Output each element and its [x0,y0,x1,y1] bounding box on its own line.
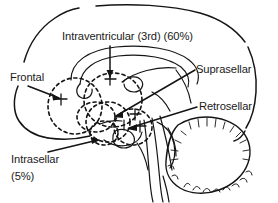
label-retrosellar: Retrosellar [199,100,252,112]
tumor-circle-intraventricular [84,73,142,127]
brainstem-group [144,116,176,202]
fornix-line [122,68,176,82]
skull-outline-right [246,47,256,128]
label-frontal: Frontal [10,71,44,83]
brainstem-mid-line [152,118,163,202]
brain-sagittal-diagram: Intraventricular (3rd) (60%) Frontal Sup… [0,0,278,203]
cerebellum-group [166,117,252,193]
label-intrasellar-percent: (5%) [11,170,35,182]
marker-cross-frontal [56,94,67,105]
cerebellum-outline [166,117,250,193]
figure-canvas: Intraventricular (3rd) (60%) Frontal Sup… [0,0,278,203]
medulla-lower [163,176,169,202]
clivus-line [137,143,148,170]
frontal-lobe-contour [14,86,48,138]
leader-intrasellar [48,140,98,152]
sella-region-group [100,120,148,170]
marker-cross-intraventricular [105,74,116,85]
label-suprasellar: Suprasellar [196,63,252,75]
label-intrasellar: Intrasellar [11,153,59,165]
label-intraventricular: Intraventricular (3rd) (60%) [62,30,193,42]
orbital-surface-contour [48,136,90,139]
tumor-circle-midline-extension [77,102,115,132]
tumor-location-circles-group [48,73,152,145]
midbrain-upper-boundary [152,92,170,111]
